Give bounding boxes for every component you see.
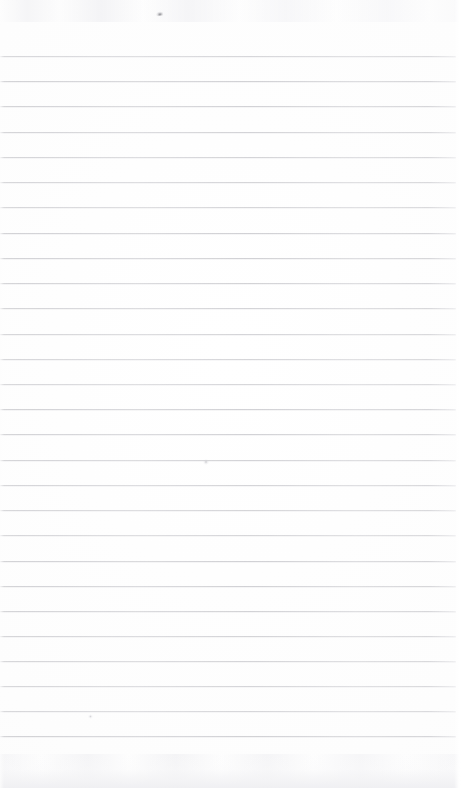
paper-texture-bottom [0, 754, 461, 788]
writing-area[interactable] [0, 40, 461, 746]
notebook-page [0, 0, 461, 788]
